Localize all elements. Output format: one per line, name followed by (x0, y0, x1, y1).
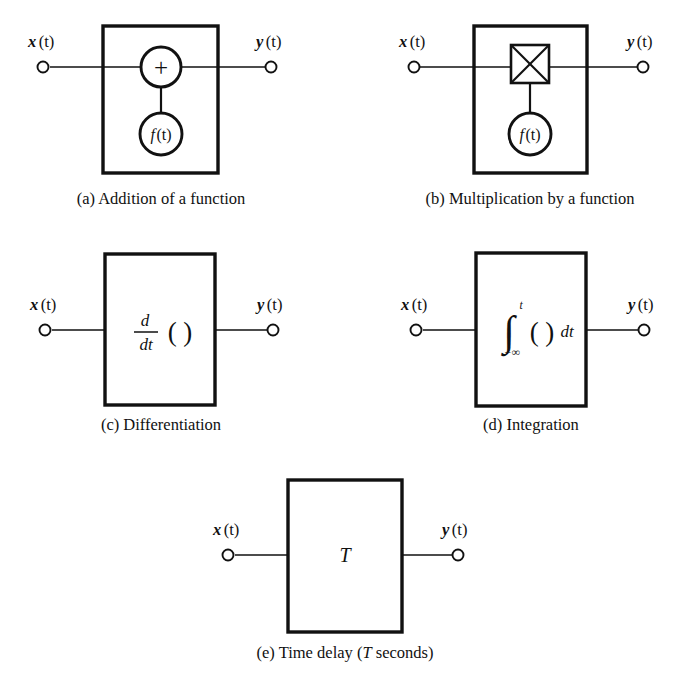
panel-c-differentiation: d dt ( ) x(t) y(t) (c) Differentiation (29, 254, 282, 434)
panel-b-multiplication: f(t) x(t) y(t) (b) Multiplication by a f… (398, 26, 652, 208)
panel-d-output-arg: (t) (638, 295, 654, 314)
panel-e-caption: (e) Time delay (T seconds) (257, 643, 434, 662)
panel-d-output-terminal (639, 325, 650, 336)
panel-c-block-boundary (105, 254, 215, 405)
panel-b-input-label: x(t) (398, 32, 425, 51)
panel-a-input-var: x (27, 32, 36, 51)
panel-c-caption: (c) Differentiation (101, 415, 221, 434)
panel-c-output-terminal (268, 325, 279, 336)
panel-c-expression: d dt ( ) (134, 311, 192, 354)
panel-a-output-var: y (254, 32, 264, 51)
panel-a-input-terminal (38, 62, 49, 73)
panel-c-operand-parens: ( ) (168, 317, 193, 347)
panel-c-input-var: x (29, 295, 38, 314)
panel-c-input-arg: (t) (41, 295, 57, 314)
panel-d-upper-limit: t (519, 299, 523, 311)
panel-b-function-arg: (t) (525, 126, 540, 144)
panel-a-output-label: y(t) (254, 32, 281, 51)
panel-d-input-label: x(t) (400, 295, 427, 314)
panel-d-integration: ∫ t −∞ ( ) dt x(t) y(t) (d) Integration (400, 253, 653, 434)
panel-b-output-terminal (638, 62, 649, 73)
panel-b-input-arg: (t) (410, 32, 426, 51)
panel-a-function-arg: (t) (156, 126, 171, 144)
panel-a-output-arg: (t) (266, 32, 282, 51)
panel-e-input-terminal (223, 550, 234, 561)
panel-a-output-terminal (266, 62, 277, 73)
panel-c-output-arg: (t) (267, 295, 283, 314)
panel-c-derivative-denominator: dt (139, 335, 154, 354)
panel-a-input-label: x(t) (27, 32, 54, 51)
panel-e-input-var: x (212, 520, 221, 539)
panel-d-input-var: x (400, 295, 409, 314)
panel-d-operand-parens: ( ) (530, 317, 555, 347)
panel-d-lower-limit: −∞ (504, 346, 520, 358)
figure-root: + f(t) x(t) y(t) (a) Addition of a funct… (0, 0, 684, 687)
panel-c-derivative-numerator: d (141, 311, 150, 330)
panel-e-block-symbol: T (339, 544, 352, 566)
panel-d-input-terminal (411, 325, 422, 336)
panel-d-output-var: y (626, 295, 636, 314)
panel-e-output-arg: (t) (452, 520, 468, 539)
panel-a-addition: + f(t) x(t) y(t) (a) Addition of a funct… (27, 26, 281, 208)
panel-b-caption: (b) Multiplication by a function (426, 189, 635, 208)
panel-c-input-label: x(t) (29, 295, 56, 314)
panel-e-caption-suffix: seconds) (372, 643, 434, 662)
panel-e-input-arg: (t) (224, 520, 240, 539)
block-diagram-figure: + f(t) x(t) y(t) (a) Addition of a funct… (0, 0, 684, 687)
panel-e-time-delay: T x(t) y(t) (e) Time delay (T seconds) (212, 480, 467, 662)
panel-e-caption-prefix: (e) Time delay ( (257, 643, 363, 662)
panel-d-differential: dt (560, 322, 575, 341)
panel-a-input-arg: (t) (39, 32, 55, 51)
panel-e-output-label: y(t) (440, 520, 467, 539)
panel-d-input-arg: (t) (412, 295, 428, 314)
panel-c-input-terminal (40, 325, 51, 336)
panel-d-output-label: y(t) (626, 295, 653, 314)
panel-a-function-label: f(t) (150, 126, 171, 144)
panel-e-output-var: y (440, 520, 450, 539)
panel-a-caption: (a) Addition of a function (77, 189, 246, 208)
panel-e-input-label: x(t) (212, 520, 239, 539)
panel-b-output-var: y (625, 32, 635, 51)
panel-a-operator-symbol: + (154, 54, 168, 81)
panel-b-function-label: f(t) (519, 126, 540, 144)
panel-d-caption: (d) Integration (483, 415, 579, 434)
panel-b-output-arg: (t) (637, 32, 653, 51)
panel-c-output-label: y(t) (255, 295, 282, 314)
panel-e-output-terminal (453, 550, 464, 561)
panel-b-output-label: y(t) (625, 32, 652, 51)
panel-c-output-var: y (255, 295, 265, 314)
panel-b-input-terminal (409, 62, 420, 73)
panel-d-expression: ∫ t −∞ ( ) dt (500, 299, 575, 358)
panel-b-input-var: x (398, 32, 407, 51)
